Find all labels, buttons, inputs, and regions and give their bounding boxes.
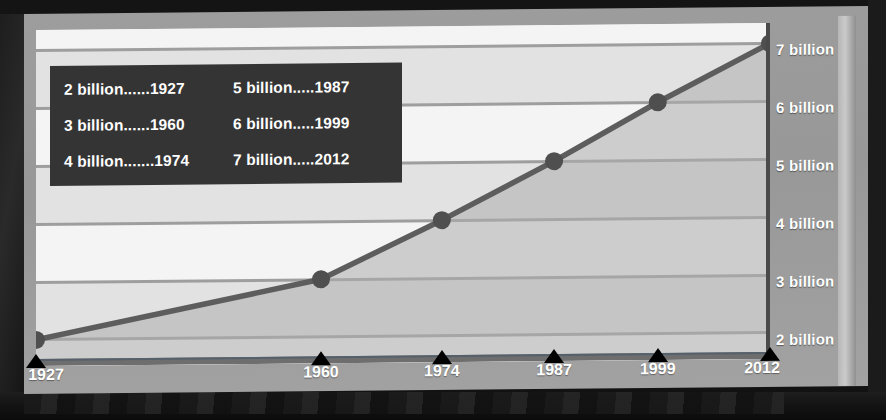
legend-entry: 2 billion......1927 [64,79,233,99]
y-axis-tick-label: 6 billion [776,99,834,117]
chart-data-point[interactable] [545,152,563,170]
x-axis-tick-label: 1974 [424,362,460,380]
photo-frame-texture [24,392,784,414]
legend-entry: 5 billion.....1987 [233,78,402,98]
x-axis-tick-label: 1999 [640,360,676,378]
y-axis-tick-label: 2 billion [776,330,834,348]
chart-data-point[interactable] [433,211,451,229]
chart-legend: 2 billion......19275 billion.....19873 b… [50,63,402,186]
chart-y-tick-labels: 7 billion6 billion5 billion4 billion3 bi… [776,29,876,366]
y-axis-tick-label: 3 billion [776,272,834,290]
chart-x-tick-labels: 192719601974198719992012 [36,359,796,394]
chart-y-axis [766,23,770,359]
photo-frame-left [0,0,24,420]
legend-entry: 6 billion.....1999 [233,114,402,134]
legend-entry: 3 billion......1960 [64,115,233,135]
x-axis-tick-label: 1927 [28,366,64,384]
chart-data-point[interactable] [312,270,330,288]
screenshot-root: 7 billion6 billion5 billion4 billion3 bi… [0,0,886,420]
x-axis-tick-label: 2012 [744,359,780,377]
chart-data-point[interactable] [649,93,667,111]
legend-entry: 7 billion.....2012 [233,150,402,170]
x-axis-tick-label: 1960 [303,363,339,381]
x-axis-tick-label: 1987 [536,361,572,379]
legend-entry: 4 billion.......1974 [64,151,233,171]
chart-legend-grid: 2 billion......19275 billion.....19873 b… [50,63,402,186]
y-axis-tick-label: 5 billion [776,157,834,175]
y-axis-tick-label: 4 billion [776,215,834,233]
y-axis-tick-label: 7 billion [776,41,834,59]
